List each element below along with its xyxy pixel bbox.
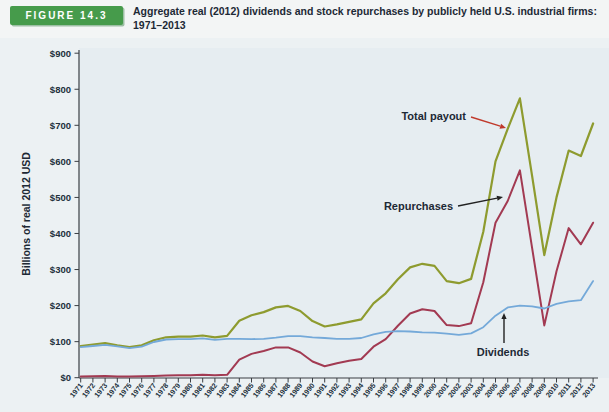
svg-text:$900: $900: [50, 48, 71, 59]
y-axis: $0$100$200$300$400$500$600$700$800$900: [50, 48, 79, 384]
plot-area: [79, 48, 609, 378]
figure-14-3: FIGURE 14.3 Aggregate real (2012) divide…: [0, 0, 609, 412]
svg-text:$300: $300: [50, 264, 71, 275]
svg-text:2013: 2013: [580, 381, 597, 399]
svg-text:$100: $100: [50, 336, 71, 347]
x-axis: 1971197219731974197519761977197819791980…: [68, 378, 598, 399]
y-axis-ticks: $0$100$200$300$400$500$600$700$800$900: [50, 48, 79, 384]
payout-chart: $0$100$200$300$400$500$600$700$800$900 1…: [0, 0, 609, 412]
y-axis-title: Billions of real 2012 USD: [20, 152, 32, 276]
total-payout-annotation: Total payout: [401, 110, 466, 122]
svg-text:$400: $400: [50, 228, 71, 239]
svg-text:$200: $200: [50, 300, 71, 311]
x-axis-ticks: 1971197219731974197519761977197819791980…: [68, 378, 597, 399]
svg-text:$500: $500: [50, 192, 71, 203]
svg-text:$800: $800: [50, 84, 71, 95]
svg-text:$700: $700: [50, 120, 71, 131]
repurchases-annotation: Repurchases: [384, 200, 453, 212]
svg-text:$0: $0: [60, 372, 71, 383]
dividends-annotation: Dividends: [477, 346, 530, 358]
svg-text:$600: $600: [50, 156, 71, 167]
